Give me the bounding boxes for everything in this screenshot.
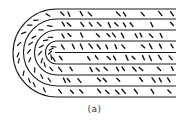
director-dash [107, 34, 110, 37]
director-dash [149, 44, 152, 49]
director-dash [98, 89, 101, 93]
director-dash [70, 67, 72, 71]
director-dash [81, 33, 83, 37]
director-dash [33, 83, 35, 87]
director-dash [44, 63, 45, 67]
director-dash [80, 11, 82, 15]
figure-caption: (a) [0, 104, 189, 114]
director-dash [116, 12, 120, 16]
director-dash [78, 79, 81, 83]
director-dash [46, 14, 50, 16]
director-dash [80, 44, 82, 49]
director-dash [68, 34, 71, 37]
director-dash [48, 51, 51, 54]
director-dash [104, 67, 107, 70]
director-dash [48, 78, 51, 82]
director-dash [149, 56, 151, 61]
director-dash [61, 12, 64, 15]
director-dash [59, 90, 61, 94]
director-dash [149, 34, 152, 37]
director-dash [121, 33, 123, 37]
director-dash [50, 67, 53, 71]
director-dash [67, 23, 71, 26]
director-dash [29, 78, 31, 82]
director-dash [63, 78, 65, 82]
director-dash [23, 71, 24, 75]
layer-boundary-lines [13, 9, 176, 97]
director-dash [51, 55, 52, 59]
director-dash [97, 22, 101, 26]
director-dash [18, 59, 19, 63]
director-dash [135, 34, 137, 38]
director-dash [62, 22, 64, 26]
director-dash [115, 45, 117, 49]
director-dash [96, 68, 99, 71]
director-dash [32, 36, 36, 38]
director-dash [117, 78, 120, 81]
director-dash [122, 67, 125, 71]
director-dash [114, 56, 116, 60]
director-dash [53, 57, 55, 61]
director-dash [115, 23, 118, 26]
director-dash [59, 67, 62, 71]
director-dash [171, 44, 173, 48]
director-dash [108, 23, 110, 28]
director-dash [134, 89, 137, 93]
director-dash [113, 33, 116, 37]
director-dash [88, 57, 90, 60]
director-dash [41, 58, 42, 62]
director-dash [44, 40, 48, 41]
director-dash [168, 90, 171, 93]
director-dash [139, 67, 142, 70]
director-dash [132, 56, 135, 59]
director-dash [123, 12, 125, 16]
director-dash [89, 44, 92, 48]
director-dash [171, 67, 173, 71]
director-dash [123, 23, 125, 27]
director-dash [71, 90, 74, 93]
director-dash [151, 22, 153, 26]
director-dash [170, 12, 173, 16]
director-dash [106, 45, 108, 49]
director-dash [130, 23, 133, 27]
director-dash [17, 42, 20, 45]
director-dash [107, 57, 110, 60]
director-dash [106, 90, 109, 93]
director-dash [96, 34, 99, 37]
director-dash [41, 74, 43, 78]
director-dash [29, 58, 31, 62]
director-dash [115, 90, 119, 94]
director-dash [89, 23, 92, 27]
director-dash [142, 45, 145, 48]
director-dash [49, 48, 53, 50]
director-dash [159, 44, 161, 48]
director-dash [48, 26, 52, 27]
director-dash [122, 45, 125, 48]
director-dash [133, 67, 136, 71]
director-dash [141, 12, 144, 15]
director-dash [88, 12, 91, 15]
director-dash [61, 45, 64, 49]
director-dash [171, 22, 174, 25]
director-dash [159, 11, 162, 15]
director-dash [122, 89, 125, 93]
director-dash [68, 12, 70, 16]
director-dash [39, 51, 42, 54]
director-dash [159, 78, 161, 82]
director-dash [103, 78, 106, 82]
director-dash [168, 78, 170, 82]
director-dash [98, 78, 101, 81]
director-dash [95, 56, 98, 59]
director-dash [90, 67, 92, 71]
director-dash [39, 45, 43, 47]
director-dash [152, 78, 155, 82]
director-dash [17, 53, 19, 57]
director-dash [157, 67, 160, 70]
director-dash [29, 42, 33, 45]
director-dash [80, 90, 83, 93]
director-dash [22, 32, 26, 33]
director-dash [140, 33, 142, 37]
director-dash [126, 55, 128, 60]
director-dash [116, 67, 118, 70]
director-dash [59, 56, 62, 60]
